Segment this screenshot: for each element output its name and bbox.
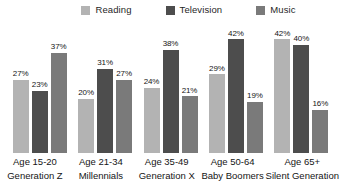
x-axis-generation-name: Generation X <box>139 169 195 182</box>
bar-group-generation-z: 27% 23% 37% <box>7 20 72 153</box>
bar-rect <box>209 74 225 153</box>
x-axis-age-range: Age 35-49 <box>145 155 189 168</box>
bar-rect <box>228 39 244 153</box>
bar-value-label: 16% <box>312 99 328 108</box>
bar-generation-x-television[interactable]: 38% <box>163 20 179 153</box>
chart-legend: Reading Television Music <box>0 2 341 18</box>
bar-value-label: 37% <box>51 42 67 51</box>
bar-group-millennials: 20% 31% 27% <box>72 20 137 153</box>
bar-millennials-reading[interactable]: 20% <box>78 20 94 153</box>
bar-rect <box>274 39 290 153</box>
bar-value-label: 42% <box>274 29 290 38</box>
legend-swatch-reading <box>81 6 90 15</box>
bar-generation-z-reading[interactable]: 27% <box>13 20 29 153</box>
bar-group-generation-x: 24% 38% 21% <box>138 20 203 153</box>
x-axis-age-range: Age 21-34 <box>79 155 123 168</box>
legend-item-reading[interactable]: Reading <box>81 5 131 15</box>
legend-swatch-music <box>256 6 265 15</box>
legend-label-music: Music <box>270 5 295 15</box>
x-axis-category-silent-generation: Age 65+ Silent Generation <box>266 155 339 189</box>
bar-value-label: 40% <box>293 34 309 43</box>
x-axis-generation-name: Generation Z <box>7 169 62 182</box>
bar-group-baby-boomers: 29% 42% 19% <box>203 20 268 153</box>
bar-value-label: 21% <box>182 86 198 95</box>
bar-value-label: 29% <box>209 64 225 73</box>
bar-rect <box>144 88 160 153</box>
bar-value-label: 27% <box>116 69 132 78</box>
bar-rect <box>247 102 263 154</box>
x-axis-category-millennials: Age 21-34 Millennials <box>68 155 134 189</box>
bar-value-label: 38% <box>163 39 179 48</box>
bar-millennials-television[interactable]: 31% <box>97 20 113 153</box>
bar-rect <box>116 80 132 153</box>
bar-rect <box>293 45 309 153</box>
legend-item-music[interactable]: Music <box>256 5 295 15</box>
bar-generation-z-music[interactable]: 37% <box>51 20 67 153</box>
bar-rect <box>97 69 113 153</box>
legend-label-reading: Reading <box>95 5 131 15</box>
bar-rect <box>51 53 67 153</box>
bar-value-label: 19% <box>247 91 263 100</box>
bar-silent-generation-reading[interactable]: 42% <box>274 20 290 153</box>
x-axis-category-baby-boomers: Age 50-64 Baby Boomers <box>200 155 266 189</box>
bar-rect <box>13 80 29 153</box>
bar-rect <box>32 91 48 153</box>
x-axis-age-range: Age 50-64 <box>211 155 255 168</box>
legend-item-television[interactable]: Television <box>166 5 223 15</box>
legend-label-television: Television <box>180 5 223 15</box>
bar-rect <box>78 99 94 153</box>
bar-baby-boomers-television[interactable]: 42% <box>228 20 244 153</box>
x-axis-category-generation-z: Age 15-20 Generation Z <box>2 155 68 189</box>
x-axis-age-range: Age 65+ <box>284 155 320 168</box>
bar-silent-generation-music[interactable]: 16% <box>312 20 328 153</box>
bar-generation-x-music[interactable]: 21% <box>182 20 198 153</box>
bar-silent-generation-television[interactable]: 40% <box>293 20 309 153</box>
bar-value-label: 24% <box>144 77 160 86</box>
legend-swatch-television <box>166 6 175 15</box>
grouped-bar-chart: Reading Television Music 27% 23% 37% <box>0 0 341 190</box>
x-axis-category-generation-x: Age 35-49 Generation X <box>134 155 200 189</box>
bar-rect <box>312 110 328 153</box>
bar-baby-boomers-reading[interactable]: 29% <box>209 20 225 153</box>
bar-value-label: 23% <box>32 80 48 89</box>
x-axis-generation-name: Baby Boomers <box>201 169 263 182</box>
x-axis-age-range: Age 15-20 <box>13 155 57 168</box>
plot-area: 27% 23% 37% 20% 31% 27% <box>0 20 341 153</box>
bar-baby-boomers-music[interactable]: 19% <box>247 20 263 153</box>
bar-generation-z-television[interactable]: 23% <box>32 20 48 153</box>
bar-generation-x-reading[interactable]: 24% <box>144 20 160 153</box>
bar-value-label: 42% <box>228 29 244 38</box>
x-axis-labels: Age 15-20 Generation Z Age 21-34 Millenn… <box>0 155 341 189</box>
bar-rect <box>182 96 198 153</box>
bar-value-label: 20% <box>78 88 94 97</box>
bar-value-label: 31% <box>97 58 113 67</box>
x-axis-generation-name: Millennials <box>79 169 123 182</box>
bar-millennials-music[interactable]: 27% <box>116 20 132 153</box>
x-axis-generation-name: Silent Generation <box>266 169 339 182</box>
bar-group-silent-generation: 42% 40% 16% <box>269 20 334 153</box>
bar-value-label: 27% <box>13 69 29 78</box>
bar-rect <box>163 50 179 153</box>
